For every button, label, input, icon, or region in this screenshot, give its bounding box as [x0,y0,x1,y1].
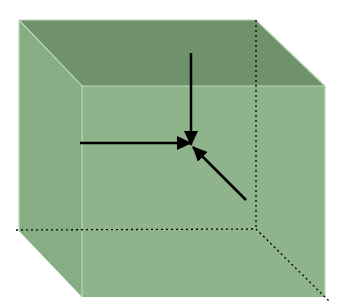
front-face [82,86,325,297]
cube-diagram [0,0,342,307]
